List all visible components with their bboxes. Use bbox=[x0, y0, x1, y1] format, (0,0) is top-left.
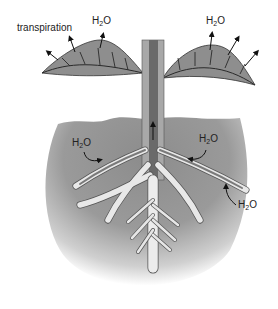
water-label-leaf-right: H2O bbox=[206, 16, 225, 27]
water-o: O bbox=[249, 199, 257, 210]
water-label-leaf-left: H2O bbox=[92, 16, 111, 27]
water-o: O bbox=[103, 15, 111, 26]
water-label-root-right: H2O bbox=[199, 134, 218, 145]
water-label-root-left: H2O bbox=[72, 138, 91, 149]
leaf-right bbox=[163, 45, 255, 85]
transpiration-label: transpiration bbox=[17, 23, 72, 33]
water-o: O bbox=[217, 15, 225, 26]
water-o: O bbox=[210, 133, 218, 144]
water-o: O bbox=[83, 137, 91, 148]
leaf-left bbox=[42, 40, 143, 76]
diagram-canvas bbox=[0, 0, 278, 309]
plant-water-diagram: transpiration H2O H2O H2O H2O H2O bbox=[0, 0, 278, 309]
water-label-root-far-right: H2O bbox=[238, 200, 257, 211]
stem bbox=[142, 40, 164, 180]
